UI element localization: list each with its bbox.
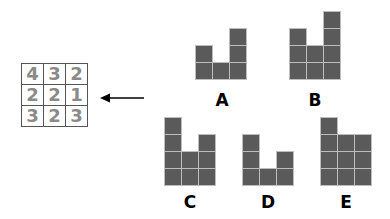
- block-cell: [230, 46, 246, 62]
- left-arrow-icon: [100, 92, 144, 104]
- block-cell: [290, 63, 306, 79]
- grid-row: 4 3 2: [22, 64, 88, 85]
- grid-cell: 3: [22, 106, 44, 127]
- grid-cell: 2: [44, 85, 66, 106]
- block-cell: [321, 135, 337, 151]
- option-label-d: D: [253, 192, 283, 212]
- grid-row: 2 2 1: [22, 85, 88, 106]
- block-cell: [196, 63, 212, 79]
- grid-cell: 1: [66, 85, 88, 106]
- number-grid: 4 3 2 2 2 1 3 2 3: [21, 63, 88, 127]
- block-cell: [324, 12, 340, 28]
- grid-cell: 4: [22, 64, 44, 85]
- block-cell: [196, 46, 212, 62]
- grid-row: 3 2 3: [22, 106, 88, 127]
- block-cell: [321, 152, 337, 168]
- block-cell: [165, 152, 181, 168]
- grid-cell: 3: [44, 64, 66, 85]
- block-cell: [230, 29, 246, 45]
- block-cell: [182, 169, 198, 185]
- block-cell: [307, 63, 323, 79]
- block-cell: [243, 169, 259, 185]
- grid-cell: 2: [66, 64, 88, 85]
- block-cell: [277, 152, 293, 168]
- block-cell: [165, 135, 181, 151]
- block-cell: [321, 118, 337, 134]
- block-cell: [182, 152, 198, 168]
- block-cell: [338, 135, 354, 151]
- block-cell: [321, 169, 337, 185]
- block-cell: [324, 29, 340, 45]
- block-cell: [324, 46, 340, 62]
- block-cell: [307, 46, 323, 62]
- block-cell: [199, 169, 215, 185]
- block-cell: [355, 152, 371, 168]
- block-cell: [338, 152, 354, 168]
- block-cell: [355, 135, 371, 151]
- grid-cell: 3: [66, 106, 88, 127]
- block-cell: [213, 63, 229, 79]
- block-cell: [230, 63, 246, 79]
- block-cell: [277, 169, 293, 185]
- block-cell: [199, 152, 215, 168]
- block-cell: [290, 29, 306, 45]
- block-cell: [324, 63, 340, 79]
- block-cell: [355, 169, 371, 185]
- block-cell: [260, 169, 276, 185]
- block-cell: [165, 118, 181, 134]
- option-label-e: E: [331, 192, 361, 212]
- option-label-b: B: [300, 90, 330, 110]
- block-cell: [290, 46, 306, 62]
- option-label-c: C: [175, 192, 205, 212]
- grid-cell: 2: [44, 106, 66, 127]
- block-cell: [338, 169, 354, 185]
- block-cell: [243, 152, 259, 168]
- option-label-a: A: [207, 90, 237, 110]
- grid-cell: 2: [22, 85, 44, 106]
- block-cell: [199, 135, 215, 151]
- block-cell: [243, 135, 259, 151]
- block-cell: [165, 169, 181, 185]
